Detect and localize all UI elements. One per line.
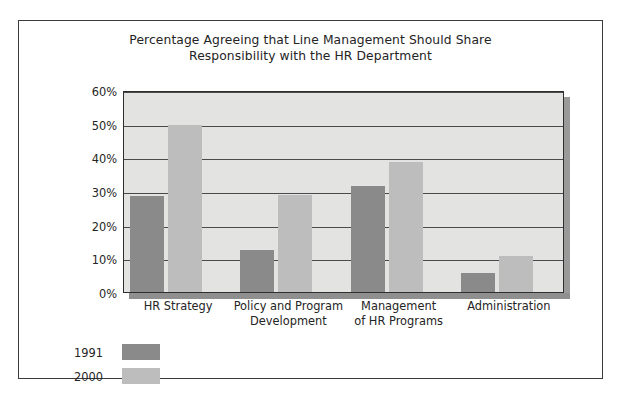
- legend-item-2000[interactable]: 2000: [74, 367, 254, 391]
- chart-legend: 19912000: [74, 343, 254, 391]
- y-axis-tick-label: 60%: [92, 85, 117, 99]
- figure-frame: Percentage Agreeing that Line Management…: [18, 20, 603, 379]
- x-axis-label: Policy and ProgramDevelopment: [233, 299, 343, 328]
- bar-2000: [168, 125, 202, 292]
- bar-2000: [499, 256, 533, 292]
- y-axis-tick-label: 0%: [99, 287, 117, 301]
- bar-1991: [130, 196, 164, 292]
- bar-group: [455, 92, 565, 292]
- chart-title-line-2: Responsibility with the HR Department: [19, 49, 602, 65]
- x-axis-label-line: HR Strategy: [123, 299, 233, 314]
- x-axis-category-labels: HR StrategyPolicy and ProgramDevelopment…: [123, 299, 564, 339]
- y-axis-tick-label: 50%: [92, 119, 117, 133]
- plot-area: 0%10%20%30%40%50%60%: [123, 91, 564, 293]
- legend-swatch: [122, 344, 160, 360]
- x-axis-label-line: Administration: [454, 299, 564, 314]
- bars-layer: [124, 92, 563, 292]
- bar-1991: [351, 186, 385, 292]
- x-axis-label: Administration: [454, 299, 564, 314]
- bar-group: [234, 92, 344, 292]
- y-axis-tick-label: 10%: [92, 253, 117, 267]
- plot-wrapper: 0%10%20%30%40%50%60%: [105, 71, 585, 311]
- x-axis-label-line: Development: [233, 314, 343, 329]
- bar-1991: [461, 273, 495, 292]
- legend-label: 2000: [74, 370, 112, 384]
- legend-label: 1991: [74, 346, 112, 360]
- chart-title: Percentage Agreeing that Line Management…: [19, 33, 602, 64]
- x-axis-label: HR Strategy: [123, 299, 233, 314]
- chart-title-line-1: Percentage Agreeing that Line Management…: [19, 33, 602, 49]
- x-axis-label-line: of HR Programs: [344, 314, 454, 329]
- legend-swatch: [122, 368, 160, 384]
- x-axis-label-line: Management: [344, 299, 454, 314]
- bar-group: [345, 92, 455, 292]
- y-axis-tick-label: 30%: [92, 186, 117, 200]
- legend-item-1991[interactable]: 1991: [74, 343, 254, 367]
- bar-group: [124, 92, 234, 292]
- y-axis-tick-label: 20%: [92, 220, 117, 234]
- x-axis-label: Managementof HR Programs: [344, 299, 454, 328]
- y-axis-tick-label: 40%: [92, 152, 117, 166]
- x-axis-label-line: Policy and Program: [233, 299, 343, 314]
- bar-1991: [240, 250, 274, 292]
- bar-2000: [278, 195, 312, 292]
- bar-2000: [389, 162, 423, 292]
